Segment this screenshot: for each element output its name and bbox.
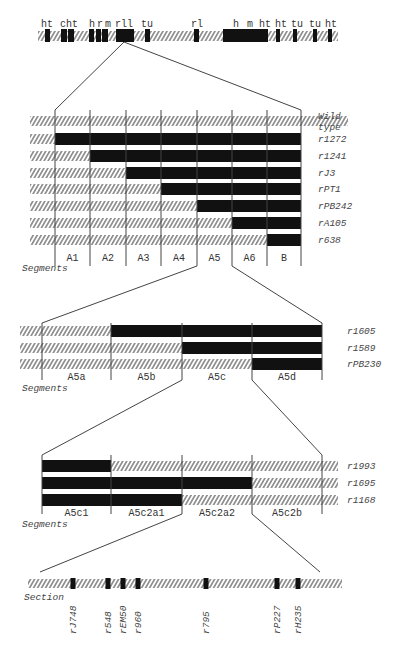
connector-line xyxy=(124,42,301,110)
chromosome-band xyxy=(68,29,74,42)
chromosome-label: h xyxy=(89,19,95,30)
segment-label: A6 xyxy=(243,253,255,264)
row-label: rJ3 xyxy=(318,168,335,179)
deletion-bar xyxy=(55,133,301,145)
chromosome-band xyxy=(293,29,297,42)
segment-label: A2 xyxy=(102,253,114,264)
chromosome-label: rl xyxy=(191,19,203,30)
chromosome-label: ht xyxy=(66,19,78,30)
chromosome-label: ht xyxy=(41,19,53,30)
row-Wild-hatch xyxy=(30,116,348,126)
chromosome-label: tu xyxy=(291,19,303,30)
chromosome-label: ht xyxy=(259,19,271,30)
row-label: type xyxy=(318,122,341,133)
segment-label: A5c2a1 xyxy=(128,508,164,519)
chromosome-band xyxy=(45,29,50,42)
segment-label: B xyxy=(281,253,287,264)
chromosome-band xyxy=(194,29,199,42)
chromosome-label: rll xyxy=(115,19,133,30)
chromosome-band xyxy=(61,29,67,42)
chromosome-overview: htchthrmrllturlhmhthttutuht xyxy=(38,19,338,42)
chromosome-band xyxy=(96,29,101,42)
chromosome-label: ht xyxy=(275,19,287,30)
connector-line xyxy=(252,380,322,455)
connector-line xyxy=(232,266,322,323)
deletion-bar xyxy=(267,234,301,246)
chromosome-band xyxy=(276,29,280,42)
segment-label: A3 xyxy=(137,253,149,264)
deletion-bar xyxy=(42,477,252,489)
segment-label: A5d xyxy=(278,372,296,383)
deletion-map-diagram: htchthrmrllturlhmhthttutuht Wildtyper127… xyxy=(0,0,404,646)
chromosome-label: m xyxy=(247,19,253,30)
marker-band xyxy=(275,578,280,589)
row-label: rPB242 xyxy=(318,201,353,212)
panel-segments-a5: r1605r1589rPB230A5aA5bA5cA5dSegments xyxy=(20,323,382,394)
segments-caption: Segments xyxy=(22,519,68,530)
deletion-bar xyxy=(42,460,111,472)
chromosome-band xyxy=(102,29,108,42)
chromosome-label: r xyxy=(97,19,103,30)
marker-band xyxy=(121,578,126,589)
row-label: rPT1 xyxy=(318,184,341,195)
row-label: r1993 xyxy=(347,461,376,472)
row-label: r638 xyxy=(318,235,341,246)
segments-caption: Segments xyxy=(22,383,68,394)
chromosome-band xyxy=(116,29,134,42)
deletion-bar xyxy=(197,200,301,212)
panel-segments-a5c: r1993r1695r1168A5c1A5c2a1A5c2a2A5c2bSegm… xyxy=(22,455,376,530)
segment-label: A1 xyxy=(66,253,78,264)
deletion-bar xyxy=(42,494,182,506)
chromosome-band xyxy=(145,29,150,42)
row-label: r1605 xyxy=(347,326,376,337)
row-label: rA105 xyxy=(318,218,347,229)
marker-band xyxy=(71,578,76,589)
segment-label: A5c xyxy=(208,372,226,383)
chromosome-label: ht xyxy=(325,19,337,30)
chromosome-band xyxy=(89,29,94,42)
panel-section-markers: rJ748r548rEM50r960r795rP227rH235Section xyxy=(24,578,342,634)
chromosome-band xyxy=(245,29,258,42)
row-label: r1168 xyxy=(347,495,376,506)
connector-line xyxy=(252,514,320,572)
connector-line xyxy=(55,42,124,110)
marker-label: r960 xyxy=(133,611,144,634)
marker-label: r548 xyxy=(103,611,114,634)
marker-label: rEM50 xyxy=(118,605,129,634)
deletion-bar xyxy=(126,167,301,179)
segment-label: A5c1 xyxy=(64,508,88,519)
marker-label: rH235 xyxy=(293,605,304,634)
segment-label: A5a xyxy=(67,372,85,383)
deletion-bar xyxy=(90,150,301,162)
chromosome-band xyxy=(258,29,268,42)
segment-label: A5b xyxy=(137,372,155,383)
marker-label: rP227 xyxy=(272,605,283,634)
segment-label: A5c2a2 xyxy=(199,508,235,519)
chromosome-label: h xyxy=(233,19,239,30)
segment-label: A4 xyxy=(173,253,185,264)
chromosome-band xyxy=(313,29,317,42)
marker-label: rJ748 xyxy=(68,605,79,634)
panel-segments-a: Wildtyper1272r1241rJ3rPT1rPB242rA105r638… xyxy=(22,110,353,274)
marker-band xyxy=(296,578,301,589)
chromosome-label: tu xyxy=(141,19,153,30)
segment-label: A5 xyxy=(208,253,220,264)
connector-line xyxy=(42,266,197,323)
chromosome-label: tu xyxy=(309,19,321,30)
row-label: r1272 xyxy=(318,134,347,145)
chromosome-band xyxy=(223,29,245,42)
deletion-bar xyxy=(111,325,322,337)
marker-band xyxy=(136,578,141,589)
section-caption: Section xyxy=(24,592,64,603)
segment-label: A5c2b xyxy=(272,508,302,519)
chromosome-band xyxy=(328,29,332,42)
deletion-bar xyxy=(252,358,322,370)
row-label: r1695 xyxy=(347,478,376,489)
marker-band xyxy=(204,578,209,589)
segments-caption: Segments xyxy=(22,263,68,274)
row-label: r1589 xyxy=(347,343,376,354)
row-label: rPB230 xyxy=(347,359,382,370)
row-label: r1241 xyxy=(318,151,347,162)
row-r638-hatch xyxy=(30,235,301,245)
deletion-bar xyxy=(161,183,301,195)
